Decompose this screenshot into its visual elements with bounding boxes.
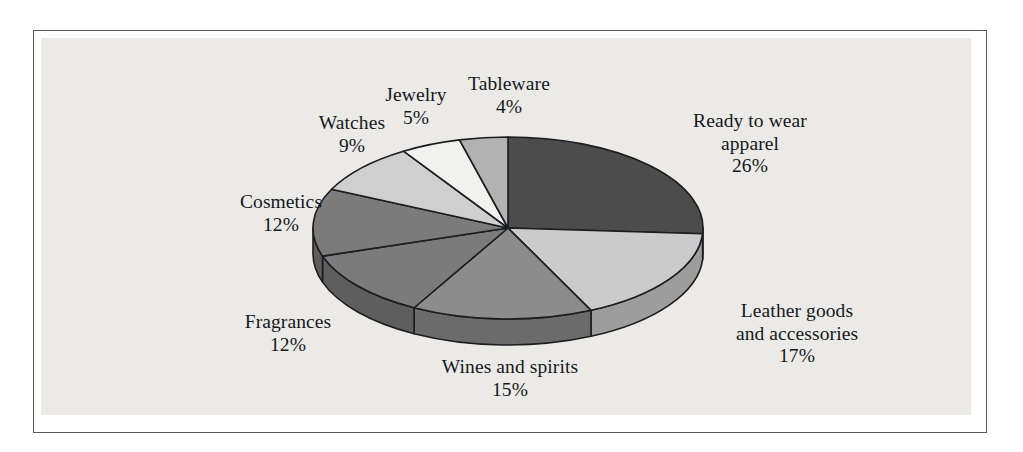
slice-label-cosmetics: Cosmetics12% [186,191,376,236]
slice-label-text: Ready to wear [640,110,860,133]
slice-label-percent: 26% [640,155,860,178]
slice-label-fragrances: Fragrances12% [193,311,383,356]
pie-chart-figure: Ready to wearapparel26%Leather goodsand … [0,0,1023,452]
slice-label-text: Leather goods [672,300,922,323]
slice-label-tableware: Tableware4% [429,73,589,118]
slice-label-text: Wines and spirits [400,356,620,379]
slice-label-percent: 17% [672,345,922,368]
slice-label-text: Cosmetics [186,191,376,214]
slice-label-percent: 15% [400,379,620,402]
slice-label-text: Tableware [429,73,589,96]
slice-label-text: Fragrances [193,311,383,334]
slice-label-wines-and-spirits: Wines and spirits15% [400,356,620,401]
slice-label-text-continued: apparel [640,133,860,156]
slice-label-text-continued: and accessories [672,323,922,346]
slice-label-percent: 12% [193,334,383,357]
slice-label-percent: 4% [429,96,589,119]
slice-label-leather-goods-and-accessories: Leather goodsand accessories17% [672,300,922,368]
slice-label-percent: 9% [272,135,432,158]
slice-label-ready-to-wear-apparel: Ready to wearapparel26% [640,110,860,178]
slice-label-percent: 12% [186,214,376,237]
